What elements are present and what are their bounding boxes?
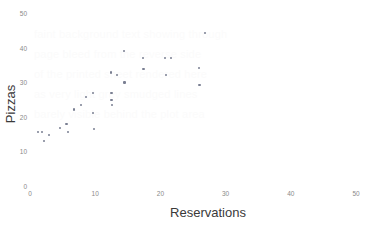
data-point: [65, 123, 67, 125]
data-point: [110, 71, 112, 73]
data-point: [92, 92, 94, 94]
data-point: [142, 57, 144, 59]
data-point: [67, 131, 69, 133]
y-tick-label: 20: [20, 115, 27, 122]
data-point: [85, 96, 87, 98]
data-point: [73, 108, 75, 110]
y-tick-label: 30: [20, 80, 27, 87]
data-point: [48, 134, 50, 136]
plot-area: 0102030405001020304050: [0, 0, 370, 228]
data-point: [59, 127, 61, 129]
x-tick-label: 30: [222, 191, 229, 198]
data-point: [116, 74, 118, 76]
data-point: [110, 92, 112, 94]
x-tick-label: 40: [287, 191, 294, 198]
data-point: [165, 74, 167, 76]
data-point: [111, 104, 113, 106]
data-point: [43, 140, 45, 142]
x-tick-label: 20: [157, 191, 164, 198]
y-tick-label: 40: [20, 45, 27, 52]
data-point: [41, 131, 43, 133]
y-axis-title: Pizzas: [3, 85, 18, 123]
x-axis-title: Reservations: [170, 205, 246, 220]
x-tick-label: 0: [28, 191, 32, 198]
data-point: [80, 104, 82, 106]
y-tick-label: 50: [20, 11, 27, 18]
x-tick-label: 50: [352, 191, 359, 198]
data-point: [92, 112, 94, 114]
data-point: [204, 32, 206, 34]
data-point: [123, 50, 125, 52]
data-point: [93, 128, 95, 130]
data-point: [142, 68, 144, 70]
data-point: [123, 81, 125, 83]
y-tick-label: 10: [20, 149, 27, 156]
data-point: [198, 84, 200, 86]
scatter-chart: faint background text showing through pa…: [0, 0, 370, 228]
data-point: [198, 67, 200, 69]
y-tick-label: 0: [23, 184, 27, 191]
data-point: [164, 57, 166, 59]
data-point: [170, 57, 172, 59]
x-tick-label: 10: [92, 191, 99, 198]
data-point: [110, 99, 112, 101]
data-point: [37, 131, 39, 133]
